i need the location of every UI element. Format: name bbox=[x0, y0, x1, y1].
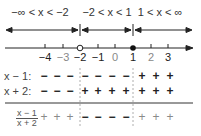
sign: − bbox=[39, 69, 49, 83]
sign: + bbox=[65, 110, 75, 124]
interval-arrows bbox=[6, 24, 192, 36]
sign: + bbox=[151, 110, 161, 124]
sign: + bbox=[93, 84, 103, 98]
tick-label: −3 bbox=[57, 51, 70, 63]
tick-label: 0 bbox=[112, 51, 118, 63]
sign: + bbox=[151, 84, 161, 98]
sign: − bbox=[93, 110, 103, 124]
sign: − bbox=[80, 110, 90, 124]
sign: + bbox=[151, 69, 161, 83]
interval-label-middle: −2 < x < 1 bbox=[82, 6, 131, 18]
sign: − bbox=[65, 69, 75, 83]
sign: + bbox=[52, 110, 62, 124]
sign: − bbox=[39, 84, 49, 98]
tick-label: 1 bbox=[130, 51, 136, 63]
sign: + bbox=[165, 110, 175, 124]
sign: + bbox=[165, 84, 175, 98]
fraction-label: x − 1 x + 2 bbox=[16, 109, 38, 128]
sign: + bbox=[137, 69, 147, 83]
sign: − bbox=[121, 110, 131, 124]
sign: − bbox=[93, 69, 103, 83]
sign: + bbox=[39, 110, 49, 124]
sign: − bbox=[52, 84, 62, 98]
sign: + bbox=[107, 84, 117, 98]
number-line bbox=[5, 44, 193, 51]
sign: − bbox=[65, 84, 75, 98]
tick-label: −4 bbox=[39, 51, 52, 63]
interval-label-right: 1 < x < ∞ bbox=[138, 6, 183, 18]
row-label-x-plus-2: x + 2: bbox=[4, 85, 31, 97]
interval-label-left: −∞ < x < −2 bbox=[11, 6, 68, 18]
tick-label: 3 bbox=[165, 51, 171, 63]
sign: + bbox=[137, 84, 147, 98]
sign: − bbox=[52, 69, 62, 83]
sign: + bbox=[121, 84, 131, 98]
sign: + bbox=[80, 84, 90, 98]
tick-label: 2 bbox=[148, 51, 154, 63]
tick-label: −1 bbox=[92, 51, 105, 63]
tick-label: −2 bbox=[74, 51, 87, 63]
sign: − bbox=[107, 69, 117, 83]
sign: − bbox=[80, 69, 90, 83]
row-label-x-minus-1: x − 1: bbox=[4, 70, 31, 82]
sign: − bbox=[107, 110, 117, 124]
sign: + bbox=[137, 110, 147, 124]
fraction-denominator: x + 2 bbox=[16, 119, 38, 128]
sign: − bbox=[121, 69, 131, 83]
sign: + bbox=[165, 69, 175, 83]
closed-point-icon bbox=[130, 45, 136, 51]
open-point-icon bbox=[77, 45, 83, 51]
